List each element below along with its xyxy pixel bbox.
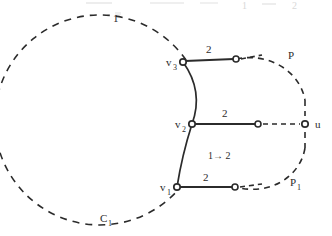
label-arc-transition: 1→ 2 bbox=[208, 150, 231, 161]
label-v1: v bbox=[160, 181, 166, 193]
label-v1-subscript: 1 bbox=[167, 188, 171, 197]
label-path-p: P bbox=[288, 49, 294, 61]
label-v2-subscript: 2 bbox=[182, 125, 186, 134]
label-u: u bbox=[315, 118, 321, 130]
ghost-smudge-c bbox=[200, 2, 218, 4]
label-v3: v bbox=[166, 56, 172, 68]
label-weight-bottom-edge: 2 bbox=[203, 171, 209, 183]
ghost-smudge-a bbox=[86, 2, 112, 4]
label-v3-subscript: 3 bbox=[173, 63, 177, 72]
label-weight-top-edge: 2 bbox=[206, 43, 212, 55]
label-cycle-c1-subscript: 1 bbox=[108, 219, 112, 228]
ghost-text-1: 1 bbox=[242, 0, 247, 11]
ghost-smudge-d bbox=[262, 3, 276, 5]
label-weight-mid-edge: 2 bbox=[222, 107, 228, 119]
node-v3[interactable] bbox=[180, 59, 186, 65]
dashed-path-p-upper bbox=[236, 58, 305, 100]
graph-diagram-svg: 1 2 bbox=[0, 0, 332, 236]
dashed-cycle-c1 bbox=[0, 15, 186, 225]
node-endpoint-lower[interactable] bbox=[232, 184, 238, 190]
label-path-p1-subscript: 1 bbox=[297, 183, 301, 192]
node-endpoint-upper[interactable] bbox=[233, 56, 239, 62]
label-cycle-weight-top: 1 bbox=[113, 12, 119, 24]
node-u[interactable] bbox=[302, 121, 308, 127]
node-v1[interactable] bbox=[174, 184, 180, 190]
ghost-text-2: 2 bbox=[292, 0, 297, 11]
node-endpoint-middle[interactable] bbox=[255, 121, 261, 127]
label-path-p1: P bbox=[290, 176, 296, 188]
label-v2: v bbox=[175, 118, 181, 130]
edge-v3-e3 bbox=[185, 59, 234, 61]
node-v2[interactable] bbox=[189, 121, 195, 127]
label-cycle-c1: C bbox=[100, 212, 107, 224]
ghost-smudge-b bbox=[150, 2, 184, 4]
figure-container: 1 2 bbox=[0, 0, 332, 236]
dashed-link-e1 bbox=[240, 184, 262, 187]
